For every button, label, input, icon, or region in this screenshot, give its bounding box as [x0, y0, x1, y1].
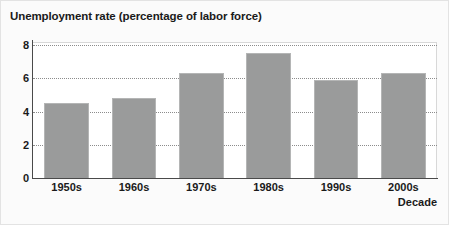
x-tick-label: 1980s [253, 181, 284, 193]
bar-1960s [112, 98, 156, 178]
bar-series [33, 0, 437, 225]
y-tick-label: 6 [3, 72, 29, 84]
x-tick-label: 2000s [388, 181, 419, 193]
x-tick-label: 1970s [186, 181, 217, 193]
x-axis-title: Decade [398, 196, 437, 208]
y-tick-label: 8 [3, 39, 29, 51]
x-tick-label: 1960s [119, 181, 150, 193]
bar-1990s [314, 80, 358, 178]
x-tick-label: 1990s [321, 181, 352, 193]
bar-2000s [381, 73, 425, 178]
x-tick-label: 1950s [51, 181, 82, 193]
bar-1970s [179, 73, 223, 178]
chart-figure: Unemployment rate (percentage of labor f… [0, 0, 449, 225]
y-tick-label: 2 [3, 139, 29, 151]
bar-1980s [246, 53, 290, 178]
y-tick-label: 4 [3, 106, 29, 118]
bar-1950s [44, 103, 88, 178]
y-axis-tick-labels: 02468 [0, 0, 29, 225]
y-tick-label: 0 [3, 172, 29, 184]
